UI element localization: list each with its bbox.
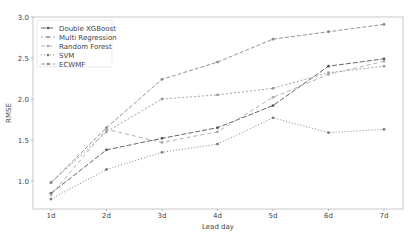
legend-entry: SVM	[59, 52, 74, 60]
y-tick-label: 1.5	[18, 137, 29, 145]
data-point	[383, 65, 386, 68]
legend-entry: Multi Regression	[59, 34, 117, 42]
x-tick-label: 7d	[380, 212, 389, 220]
legend-entry: Random Forest	[59, 43, 112, 51]
x-axis-ticks: 1d2d3d4d5d6d7d	[47, 209, 389, 220]
legend: Double XGBoostMulti RegressionRandom For…	[37, 20, 117, 69]
data-point	[216, 126, 219, 129]
data-point	[272, 116, 275, 119]
data-point	[216, 61, 219, 64]
data-point	[216, 130, 219, 133]
data-point	[50, 198, 53, 201]
y-tick-label: 2.0	[18, 96, 29, 104]
data-point	[272, 38, 275, 41]
data-point	[105, 148, 108, 151]
data-point	[327, 65, 330, 68]
x-tick-label: 3d	[158, 212, 167, 220]
data-point	[327, 73, 330, 76]
data-point	[327, 30, 330, 33]
data-point	[161, 98, 164, 101]
y-tick-label: 3.0	[18, 14, 29, 22]
legend-entry: Double XGBoost	[59, 25, 116, 33]
y-tick-label: 2.5	[18, 55, 29, 63]
data-point	[105, 168, 108, 171]
y-axis-label: RMSE	[5, 103, 13, 123]
x-tick-label: 2d	[102, 212, 111, 220]
data-point	[161, 141, 164, 144]
data-point	[383, 60, 386, 63]
data-point	[272, 87, 275, 90]
data-point	[161, 78, 164, 81]
legend-entry: ECWMF	[59, 61, 85, 69]
data-point	[161, 151, 164, 154]
y-tick-label: 1.0	[18, 178, 29, 186]
data-point	[50, 181, 53, 184]
line-chart: 1.01.52.02.53.0 1d2d3d4d5d6d7d Double XG…	[0, 0, 415, 235]
data-point	[161, 137, 164, 140]
x-tick-label: 1d	[47, 212, 56, 220]
data-point	[327, 131, 330, 134]
x-tick-label: 6d	[324, 212, 333, 220]
data-point	[383, 128, 386, 131]
y-axis-ticks: 1.01.52.02.53.0	[18, 14, 33, 186]
data-point	[216, 143, 219, 146]
data-point	[383, 57, 386, 60]
data-point	[105, 126, 108, 129]
x-axis-label: Lead day	[202, 223, 234, 231]
x-tick-label: 5d	[269, 212, 278, 220]
data-point	[383, 23, 386, 26]
data-point	[272, 104, 275, 107]
data-point	[216, 94, 219, 97]
data-point	[50, 194, 53, 197]
x-tick-label: 4d	[213, 212, 222, 220]
data-point	[272, 96, 275, 99]
